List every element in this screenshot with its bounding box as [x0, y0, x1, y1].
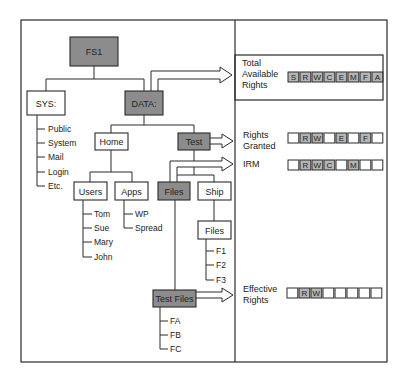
- rights-row-label: Rights: [242, 80, 268, 90]
- right-cell-w: W: [312, 133, 323, 143]
- right-letter: C: [327, 73, 333, 82]
- leaf-item: Login: [48, 167, 69, 177]
- right-letter: S: [291, 73, 296, 82]
- right-letter: W: [314, 134, 322, 143]
- leaf-item: Etc.: [48, 181, 63, 191]
- right-letter: E: [339, 73, 344, 82]
- node-data: DATA:: [125, 91, 163, 115]
- leaf-item: System: [48, 138, 76, 148]
- leaf-item: FA: [170, 316, 181, 326]
- right-cell-s: S: [288, 72, 299, 82]
- right-letter: C: [327, 161, 333, 170]
- right-cell-e: E: [336, 72, 347, 82]
- leaf-item: Public: [48, 124, 72, 134]
- node-sys: SYS:: [27, 91, 65, 115]
- rights-row-label: Effective: [243, 284, 277, 294]
- right-cell-empty: [359, 288, 370, 298]
- node-label: Ship: [205, 187, 223, 197]
- right-cell-m: M: [348, 72, 359, 82]
- leaf-item: FC: [170, 344, 181, 354]
- node-files: Files: [158, 182, 190, 200]
- rights-rows: TotalAvailableRightsSRWCEMFARightsGrante…: [242, 58, 383, 305]
- node-label: Files: [164, 187, 184, 197]
- right-cell-m: M: [348, 160, 359, 170]
- right-cell-c: C: [324, 160, 335, 170]
- right-cell-empty: [360, 160, 371, 170]
- arrow-to-effective-rights-icon: [196, 288, 233, 302]
- leaf-item: FB: [170, 330, 181, 340]
- right-letter: R: [303, 134, 309, 143]
- node-users: Users: [74, 182, 107, 200]
- leaf-item: Spread: [135, 223, 163, 233]
- leaf-item: WP: [135, 209, 149, 219]
- right-cell-r: R: [299, 288, 310, 298]
- node-label: FS1: [86, 47, 103, 57]
- right-cell-r: R: [300, 72, 311, 82]
- leaf-item: Tom: [94, 209, 110, 219]
- node-label: Users: [79, 187, 103, 197]
- right-cell-empty: [288, 160, 299, 170]
- rights-row-irm: IRMRWCM: [243, 159, 383, 170]
- right-cell-w: W: [312, 72, 323, 82]
- right-cell-empty: [287, 288, 298, 298]
- right-cell-r: R: [300, 160, 311, 170]
- right-cell-w: W: [311, 288, 322, 298]
- leaf-item: F2: [216, 260, 226, 270]
- node-test-files: Test Files: [153, 290, 196, 307]
- right-cell-f: F: [360, 72, 371, 82]
- right-letter: M: [350, 73, 357, 82]
- rights-row-total-available: TotalAvailableRightsSRWCEMFA: [242, 58, 383, 90]
- node-test: Test: [178, 133, 210, 150]
- rights-row-label: IRM: [243, 159, 260, 169]
- node-label: Files: [205, 226, 225, 236]
- rights-row-rights-granted: RightsGrantedRWEF: [243, 130, 383, 151]
- right-letter: W: [313, 289, 321, 298]
- right-letter: E: [339, 134, 344, 143]
- arrow-to-rights-granted-icon: [210, 134, 233, 148]
- right-cell-e: E: [336, 133, 347, 143]
- leaf-item: F1: [216, 246, 226, 256]
- right-letter: M: [350, 161, 357, 170]
- rights-diagram: FS1SYS:DATA:HomeTestUsersAppsFilesShipFi…: [0, 0, 406, 381]
- rights-row-effective-rights: EffectiveRightsRW: [243, 284, 382, 305]
- arrow-to-total-rights-icon: [151, 67, 232, 91]
- right-cell-empty: [347, 288, 358, 298]
- arrow-to-irm-icon: [170, 157, 233, 182]
- right-cell-c: C: [324, 72, 335, 82]
- right-letter: R: [303, 73, 309, 82]
- right-letter: W: [314, 161, 322, 170]
- leaf-item: John: [94, 252, 113, 262]
- node-label: SYS:: [36, 99, 57, 109]
- node-label: Home: [99, 137, 123, 147]
- right-letter: F: [363, 134, 368, 143]
- node-apps: Apps: [115, 182, 148, 200]
- node-home: Home: [95, 133, 128, 150]
- right-cell-empty: [372, 160, 383, 170]
- right-letter: R: [303, 161, 309, 170]
- node-label: Test: [186, 137, 203, 147]
- node-root: FS1: [70, 37, 118, 66]
- right-cell-empty: [288, 133, 299, 143]
- right-cell-empty: [372, 133, 383, 143]
- node-ship-files: Files: [198, 221, 231, 239]
- right-cell-empty: [371, 288, 382, 298]
- right-letter: W: [314, 73, 322, 82]
- right-cell-empty: [335, 288, 346, 298]
- right-cell-f: F: [360, 133, 371, 143]
- right-cell-empty: [323, 288, 334, 298]
- rights-row-label: Total: [242, 58, 261, 68]
- leaf-item: Mail: [48, 152, 64, 162]
- node-label: DATA:: [131, 99, 156, 109]
- right-cell-a: A: [372, 72, 383, 82]
- node-ship: Ship: [198, 182, 231, 200]
- right-cell-empty: [336, 160, 347, 170]
- right-letter: R: [302, 289, 308, 298]
- rights-row-label: Granted: [243, 141, 276, 151]
- right-cell-r: R: [300, 133, 311, 143]
- right-cell-empty: [324, 133, 335, 143]
- right-letter: F: [363, 73, 368, 82]
- node-label: Apps: [121, 187, 142, 197]
- rights-row-label: Available: [242, 69, 278, 79]
- leaf-item: Mary: [94, 237, 114, 247]
- right-cell-w: W: [312, 160, 323, 170]
